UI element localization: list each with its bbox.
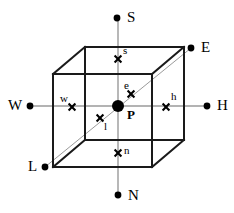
figure-canvas: S E H N L W P s e h n l w — [0, 0, 234, 213]
cube-edge-top-right-connector — [152, 47, 184, 74]
node-east-dot — [188, 45, 195, 52]
face-marker-w-label: w — [60, 93, 68, 104]
center-node-label: P — [127, 108, 135, 121]
node-north-dot — [115, 192, 122, 199]
node-south-dot — [114, 15, 121, 22]
node-low-label: L — [28, 159, 37, 174]
cube-diagram-svg — [0, 0, 234, 213]
face-marker-e-label: e — [124, 80, 129, 91]
cube-edge-top-left-connector — [53, 47, 85, 74]
node-high-label: H — [217, 98, 228, 113]
node-west-label: W — [8, 98, 22, 113]
face-marker-w-cross — [69, 104, 76, 111]
node-low-dot — [42, 164, 49, 171]
node-west-dot — [27, 103, 34, 110]
node-north-label: N — [128, 188, 139, 203]
node-high-dot — [204, 103, 211, 110]
face-marker-h-label: h — [171, 91, 177, 102]
face-marker-n-label: n — [124, 145, 130, 156]
node-east-label: E — [201, 40, 210, 55]
face-marker-l-label: l — [104, 121, 107, 132]
face-marker-h-cross — [163, 104, 170, 111]
center-node-dot — [112, 100, 124, 112]
node-south-label: S — [127, 10, 135, 25]
face-marker-s-label: s — [123, 45, 127, 56]
cube-edge-bottom-right-connector — [152, 140, 184, 167]
face-marker-l-cross — [97, 115, 104, 122]
cube-edge-bottom-left-connector — [53, 140, 85, 167]
